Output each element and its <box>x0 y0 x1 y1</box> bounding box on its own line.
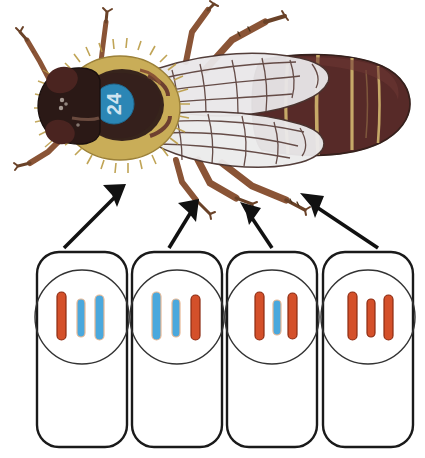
cell-3[interactable] <box>225 252 319 447</box>
chromosome-4b <box>367 299 375 337</box>
cell-2-chromosomes <box>152 292 200 340</box>
chromosome-3a <box>255 292 264 340</box>
chromosome-3c <box>288 293 297 339</box>
chromosome-1a <box>57 292 66 340</box>
chromosome-4c <box>384 295 393 340</box>
chromosome-3b <box>273 300 281 335</box>
chromosome-2b <box>172 299 180 337</box>
cell-1[interactable] <box>35 252 129 447</box>
chromosome-1c <box>95 295 104 340</box>
cell-2[interactable] <box>130 252 224 447</box>
chromosome-4a <box>348 292 357 340</box>
chromosome-1b <box>77 299 85 337</box>
cell-1-chromosomes <box>57 292 104 340</box>
cell-4[interactable] <box>321 252 415 447</box>
chromosome-2a <box>152 292 161 340</box>
figure-canvas: 24 <box>0 0 425 458</box>
cell-4-chromosomes <box>348 292 393 340</box>
chromosome-2c <box>191 295 200 340</box>
specimen-number-text: 24 <box>103 92 125 115</box>
